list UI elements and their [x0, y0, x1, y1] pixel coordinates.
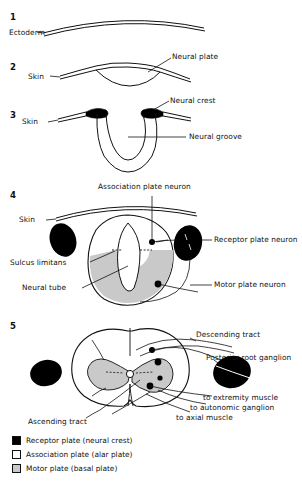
- to-axial-muscle-label: to axial muscle: [176, 413, 233, 422]
- association-plate-neuron-label: Association plate neuron: [98, 182, 191, 191]
- skin-flap-left-upper: [58, 112, 86, 119]
- neural-crest-oval-left-5: [27, 357, 64, 390]
- neural-crest-ganglion-left-4: [45, 220, 80, 260]
- skin-label-stage-2: Skin: [28, 72, 44, 81]
- ascending-tract-label: Ascending tract: [28, 417, 87, 426]
- sulcus-limitans-label: Sulcus limitans: [10, 258, 66, 267]
- skin-leader-line-4: [46, 219, 56, 220]
- stage-number-5: 5: [10, 321, 16, 331]
- skin-flap-left-lower: [58, 116, 86, 122]
- skin-lower-line: [60, 67, 191, 82]
- skin-leader-line-3: [48, 120, 58, 122]
- legend-item-association-plate: Association plate (alar plate): [12, 450, 132, 459]
- stage-1-drawing: [37, 21, 205, 36]
- ectoderm-inner-line: [44, 24, 205, 36]
- legend-item-receptor-plate: Receptor plate (neural crest): [12, 436, 132, 445]
- descending-tract-label: Descending tract: [196, 330, 260, 339]
- to-autonomic-ganglion-label: to autonomic ganglion: [190, 403, 274, 412]
- neural-plate-outline: [96, 70, 160, 86]
- receptor-ganglion-right-4: [171, 222, 206, 263]
- skin-upper-line: [60, 63, 190, 79]
- skin-leader-line-2: [50, 76, 60, 77]
- neural-crest-leader-line: [153, 101, 169, 110]
- ectoderm-label: Ectoderm: [9, 28, 45, 37]
- neural-plate-label: Neural plate: [172, 52, 218, 61]
- skin-label-stage-4: Skin: [19, 215, 35, 224]
- legend-label-association-plate: Association plate (alar plate): [26, 450, 132, 459]
- receptor-plate-neuron-label: Receptor plate neuron: [214, 235, 298, 244]
- neural-crest-right: [141, 108, 163, 118]
- skin-label-stage-3: Skin: [22, 117, 38, 126]
- neural-plate-leader-line: [148, 58, 171, 72]
- stage-number-4: 4: [10, 190, 16, 200]
- motor-plate-neuron-label: Motor plate neuron: [214, 280, 286, 289]
- legend-swatch-white-icon: [12, 450, 21, 459]
- legend-label-receptor-plate: Receptor plate (neural crest): [26, 436, 132, 445]
- posterior-root-ganglion-label: Posterior root ganglion: [206, 353, 291, 362]
- legend-swatch-black-icon: [12, 436, 21, 445]
- stage-2-drawing: [50, 58, 191, 86]
- legend-label-motor-plate: Motor plate (basal plate): [26, 464, 117, 473]
- neural-groove-label: Neural groove: [189, 132, 242, 141]
- to-extremity-muscle-label: to extremity muscle: [203, 393, 278, 402]
- stage-number-1: 1: [10, 12, 16, 22]
- neuron-dot-mid-5: [155, 359, 162, 366]
- legend-item-motor-plate: Motor plate (basal plate): [12, 464, 117, 473]
- central-canal-5: [126, 370, 133, 377]
- stage-3-drawing: [48, 101, 191, 172]
- neuron-dot-lateral-5: [157, 375, 162, 380]
- stage-number-2: 2: [10, 62, 16, 72]
- neural-tube-label: Neural tube: [22, 283, 66, 292]
- stage-number-3: 3: [10, 110, 16, 120]
- legend-swatch-gray-icon: [12, 464, 21, 473]
- stage-4-drawing: [45, 196, 212, 305]
- neural-groove-outer: [97, 114, 157, 172]
- neural-crest-label: Neural crest: [170, 96, 216, 105]
